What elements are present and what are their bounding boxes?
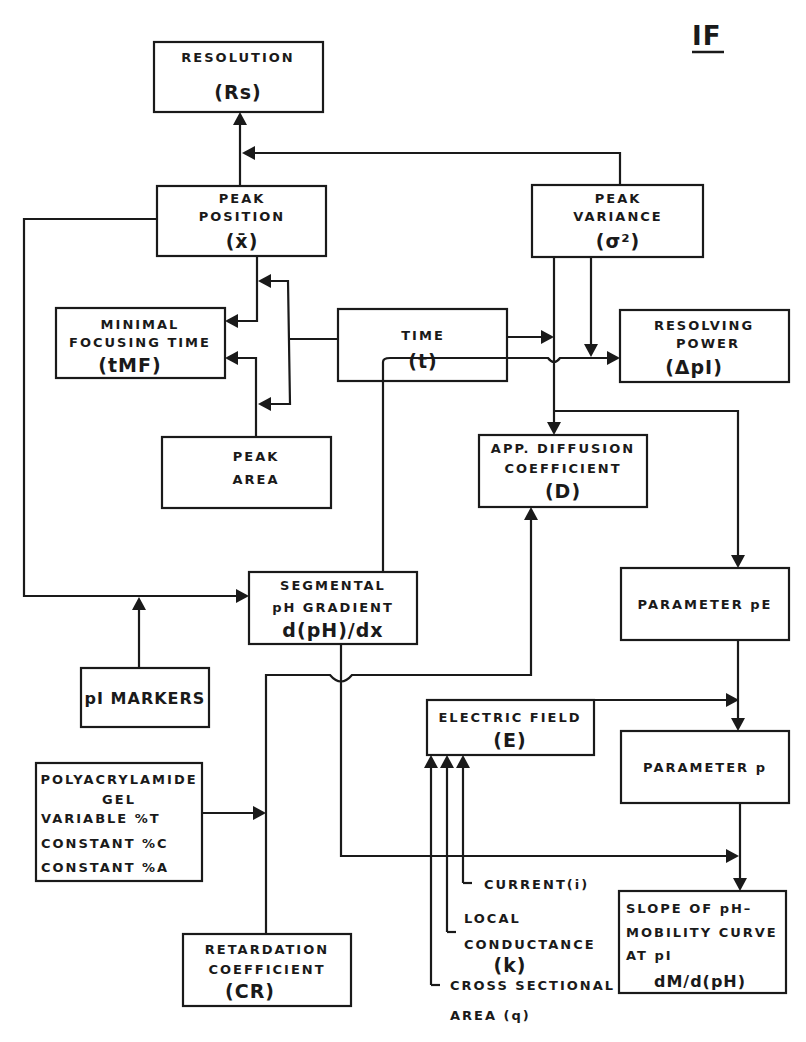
node-electric-field: ELECTRIC FIELD (E) [427,700,594,755]
node-polyacrylamide-gel: POLYACRYLAMIDE GEL VARIABLE %T CONSTANT … [36,763,202,881]
label-conductance-symbol: (k) [493,954,526,976]
svg-text:(x̄): (x̄) [226,230,259,252]
node-parameter-p: PARAMETER p [621,731,789,803]
svg-text:POLYACRYLAMIDE: POLYACRYLAMIDE [40,772,197,787]
svg-text:SLOPE OF pH–: SLOPE OF pH– [626,901,752,916]
label-current: CURRENT(i) [484,877,589,892]
svg-text:(tMF): (tMF) [98,354,161,376]
svg-text:(E): (E) [493,729,526,751]
node-resolving-power: RESOLVING POWER (ΔpI) [620,310,789,382]
node-peak-variance: PEAK VARIANCE (σ²) [532,185,703,257]
node-retardation-coefficient: RETARDATION COEFFICIENT (CR) [183,934,351,1006]
svg-text:(t): (t) [408,350,437,372]
svg-text:COEFFICIENT: COEFFICIENT [504,461,621,476]
svg-text:dM/d(pH): dM/d(pH) [654,972,746,991]
label-area-q: AREA (q) [450,1008,531,1023]
node-app-diffusion-coefficient: APP. DIFFUSION COEFFICIENT (D) [479,435,647,507]
svg-text:(ΔpI): (ΔpI) [665,356,723,378]
svg-text:VARIANCE: VARIANCE [573,209,662,224]
svg-text:PEAK: PEAK [233,449,280,464]
svg-text:POWER: POWER [676,336,740,351]
svg-text:FOCUSING TIME: FOCUSING TIME [69,335,211,350]
svg-text:pI MARKERS: pI MARKERS [85,689,206,708]
svg-text:SEGMENTAL: SEGMENTAL [280,578,386,593]
svg-text:POSITION: POSITION [199,209,285,224]
node-pi-markers: pI MARKERS [81,668,209,727]
svg-text:PARAMETER pE: PARAMETER pE [638,597,773,612]
svg-text:TIME: TIME [401,328,445,343]
svg-text:(D): (D) [545,480,581,502]
svg-text:ELECTRIC FIELD: ELECTRIC FIELD [438,710,581,725]
svg-text:CONSTANT %A: CONSTANT %A [41,860,169,875]
svg-text:PEAK: PEAK [219,191,266,206]
flow-diagram: IF RESOLUTION (Rs) PEAK POSITION (x̄) PE… [0,0,806,1042]
svg-text:APP. DIFFUSION: APP. DIFFUSION [491,441,635,456]
svg-text:GEL: GEL [102,792,136,807]
label-cross-sectional: CROSS SECTIONAL [450,978,615,993]
svg-text:COEFFICIENT: COEFFICIENT [208,962,325,977]
svg-text:(Rs): (Rs) [214,81,261,103]
node-minimal-focusing-time: MINIMAL FOCUSING TIME (tMF) [56,308,225,378]
svg-text:(CR): (CR) [225,980,275,1002]
svg-text:RESOLVING: RESOLVING [654,318,754,333]
svg-text:CONSTANT %C: CONSTANT %C [41,836,169,851]
node-time: TIME (t) [338,309,507,381]
label-local: LOCAL [464,911,521,926]
svg-text:MINIMAL: MINIMAL [101,317,180,332]
node-peak-position: PEAK POSITION (x̄) [157,186,326,256]
svg-text:RETARDATION: RETARDATION [205,942,329,957]
svg-text:MOBILITY CURVE: MOBILITY CURVE [626,925,778,940]
svg-text:d(pH)/dx: d(pH)/dx [282,619,383,641]
node-slope-ph-mobility: SLOPE OF pH– MOBILITY CURVE AT pI dM/d(p… [619,891,786,993]
svg-text:AT pI: AT pI [626,948,673,963]
figure-label: IF [692,21,721,51]
node-segmental-ph-gradient: SEGMENTAL pH GRADIENT d(pH)/dx [249,572,417,644]
svg-text:RESOLUTION: RESOLUTION [181,50,294,65]
node-peak-area: PEAK AREA [162,437,331,508]
svg-text:PARAMETER p: PARAMETER p [643,760,767,775]
svg-text:(σ²): (σ²) [596,230,641,252]
node-parameter-pe: PARAMETER pE [621,568,789,640]
svg-text:VARIABLE %T: VARIABLE %T [41,811,161,826]
label-conductance: CONDUCTANCE [464,937,596,952]
svg-text:PEAK: PEAK [595,191,642,206]
node-resolution: RESOLUTION (Rs) [154,42,323,112]
svg-text:pH GRADIENT: pH GRADIENT [272,600,394,615]
svg-text:AREA: AREA [232,472,279,487]
